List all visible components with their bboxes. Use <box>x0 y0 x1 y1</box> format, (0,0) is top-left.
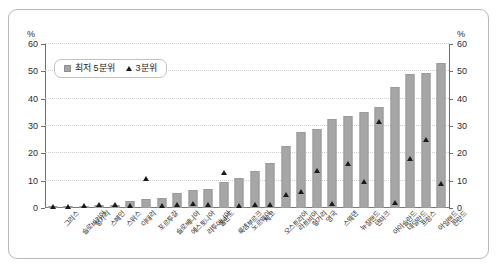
triangle-marker-icon <box>126 66 132 71</box>
bar <box>406 74 415 208</box>
x-axis-label: 스위스 <box>124 210 142 228</box>
y-tick-label-left-40: 40 <box>28 95 38 104</box>
bar-group <box>371 44 387 208</box>
triangle-marker-icon <box>159 203 165 208</box>
bar-group <box>231 44 247 208</box>
x-axis-label: 이태리 <box>140 210 158 228</box>
legend-label-third-quintile: 3분위 <box>136 63 157 73</box>
bar <box>328 119 337 208</box>
x-axis-label: 그리스 <box>62 210 80 228</box>
tick-right-60 <box>449 44 453 45</box>
bar-group <box>402 44 418 208</box>
triangle-marker-icon <box>81 203 87 208</box>
triangle-marker-icon <box>205 202 211 207</box>
y-tick-label-right-50: 50 <box>457 67 467 76</box>
bar <box>437 63 446 208</box>
triangle-marker-icon <box>112 202 118 207</box>
triangle-marker-icon <box>361 179 367 184</box>
triangle-marker-icon <box>314 168 320 173</box>
bar <box>141 199 150 208</box>
triangle-marker-icon <box>329 201 335 206</box>
bar-group <box>278 44 294 208</box>
triangle-marker-icon <box>127 203 133 208</box>
triangle-marker-icon <box>376 119 382 124</box>
y-axis-unit-left: % <box>27 30 35 39</box>
triangle-marker-icon <box>345 161 351 166</box>
y-tick-label-right-20: 20 <box>457 149 467 158</box>
y-tick-label-left-30: 30 <box>28 122 38 131</box>
tick-left-60 <box>41 44 45 45</box>
bar <box>359 112 368 208</box>
legend-entry-lowest-quintile: 최저 5분위 <box>64 63 115 73</box>
x-axis-labels: 그리스슬로바키아헝가리스페인스위스이태리포르투갈슬로베니아에스토니아리투아니아폴… <box>45 210 449 262</box>
tick-right-20 <box>449 153 453 154</box>
bar-group <box>200 44 216 208</box>
legend-entry-third-quintile: 3분위 <box>126 63 157 73</box>
bar-group <box>247 44 263 208</box>
triangle-marker-icon <box>407 156 413 161</box>
y-tick-label-left-50: 50 <box>28 67 38 76</box>
x-axis-label: 영국 <box>324 210 338 224</box>
y-tick-label-left-0: 0 <box>33 204 38 213</box>
chart-legend: 최저 5분위 3분위 <box>54 59 167 78</box>
tick-right-10 <box>449 181 453 182</box>
triangle-marker-icon <box>283 192 289 197</box>
bar <box>281 146 290 208</box>
bar-group <box>294 44 310 208</box>
tick-right-50 <box>449 71 453 72</box>
triangle-marker-icon <box>190 201 196 206</box>
triangle-marker-icon <box>298 189 304 194</box>
tick-right-30 <box>449 126 453 127</box>
y-tick-label-right-60: 60 <box>457 40 467 49</box>
bar-group <box>169 44 185 208</box>
y-tick-label-right-30: 30 <box>457 122 467 131</box>
y-tick-label-right-10: 10 <box>457 177 467 186</box>
bar-group <box>309 44 325 208</box>
x-axis-label: 폴란드 <box>217 210 235 228</box>
triangle-marker-icon <box>96 202 102 207</box>
bar-group <box>216 44 232 208</box>
legend-label-lowest-quintile: 최저 5분위 <box>75 63 115 73</box>
triangle-marker-icon <box>50 204 56 209</box>
tick-left-10 <box>41 181 45 182</box>
tick-left-50 <box>41 71 45 72</box>
x-axis-label: 스웨덴 <box>342 210 360 228</box>
chart-figure: % % 00101020203030404050506060 그리스슬로바키아헝… <box>0 0 497 268</box>
bar <box>219 182 228 208</box>
tick-left-40 <box>41 99 45 100</box>
tick-left-20 <box>41 153 45 154</box>
triangle-marker-icon <box>221 170 227 175</box>
triangle-marker-icon <box>392 200 398 205</box>
triangle-marker-icon <box>174 202 180 207</box>
bar <box>297 132 306 208</box>
triangle-marker-icon <box>236 203 242 208</box>
y-tick-label-right-40: 40 <box>457 95 467 104</box>
bar-group <box>418 44 434 208</box>
bar <box>390 87 399 208</box>
bar-group <box>433 44 449 208</box>
triangle-marker-icon <box>423 137 429 142</box>
bar-group <box>356 44 372 208</box>
y-axis-unit-right: % <box>457 30 465 39</box>
x-axis-label: 헝가리 <box>93 210 111 228</box>
triangle-marker-icon <box>65 204 71 209</box>
x-axis-label: 스페인 <box>109 210 127 228</box>
tick-right-40 <box>449 99 453 100</box>
bar-group <box>325 44 341 208</box>
y-tick-label-left-20: 20 <box>28 149 38 158</box>
tick-right-0 <box>449 208 453 209</box>
triangle-marker-icon <box>252 202 258 207</box>
triangle-marker-icon <box>267 202 273 207</box>
bar-group <box>340 44 356 208</box>
bar-group <box>387 44 403 208</box>
tick-left-30 <box>41 126 45 127</box>
y-tick-label-left-60: 60 <box>28 40 38 49</box>
square-marker-icon <box>64 65 71 72</box>
bar-group <box>263 44 279 208</box>
y-tick-label-left-10: 10 <box>28 177 38 186</box>
tick-left-0 <box>41 208 45 209</box>
bar-group <box>185 44 201 208</box>
triangle-marker-icon <box>438 181 444 186</box>
triangle-marker-icon <box>143 176 149 181</box>
